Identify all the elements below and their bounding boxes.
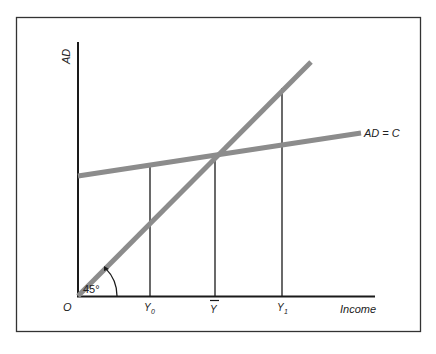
angle-arc [106, 268, 117, 296]
45-degree-line [78, 62, 311, 296]
keynesian-cross-diagram: AD O 45° AD = C Income Y 0 Y Y 1 [0, 0, 436, 354]
angle-label: 45° [83, 283, 100, 295]
origin-label: O [63, 301, 72, 313]
curve-label-ad-c: AD = C [363, 127, 400, 139]
tick-label-ybar: Y [210, 304, 218, 315]
x-axis-label: Income [340, 303, 376, 315]
tick-label-y1-sub: 1 [284, 308, 288, 315]
tick-label-y0-sub: 0 [151, 308, 155, 315]
y-axis-label: AD [60, 49, 72, 65]
